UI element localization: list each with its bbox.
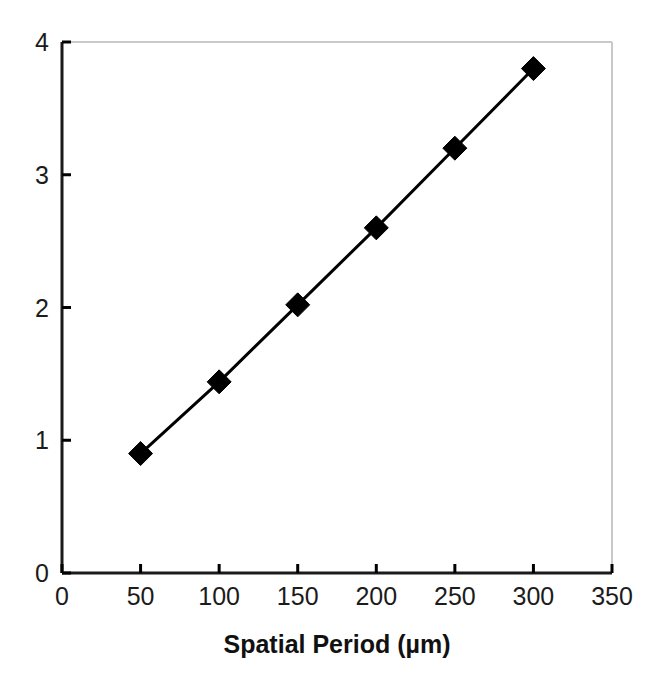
y-tick-label: 3 <box>35 161 49 189</box>
x-tick-label: 0 <box>55 582 69 610</box>
chart-figure: 050100150200250300350 01234 Spatial Peri… <box>0 0 658 677</box>
y-tick-label: 2 <box>35 294 49 322</box>
x-tick-label: 250 <box>434 582 476 610</box>
x-tick-label: 50 <box>127 582 155 610</box>
y-axis-tick-labels: 01234 <box>35 28 49 587</box>
y-tick-label: 4 <box>35 28 49 56</box>
x-tick-label: 100 <box>198 582 240 610</box>
plot-background <box>62 42 612 573</box>
x-axis-tick-labels: 050100150200250300350 <box>55 582 633 610</box>
x-tick-label: 200 <box>355 582 397 610</box>
x-axis-title: Spatial Period (µm) <box>224 630 451 658</box>
x-tick-label: 150 <box>277 582 319 610</box>
line-chart: 050100150200250300350 01234 Spatial Peri… <box>0 0 658 677</box>
x-tick-label: 300 <box>513 582 555 610</box>
x-tick-label: 350 <box>591 582 633 610</box>
y-tick-label: 0 <box>35 559 49 587</box>
y-tick-label: 1 <box>35 426 49 454</box>
